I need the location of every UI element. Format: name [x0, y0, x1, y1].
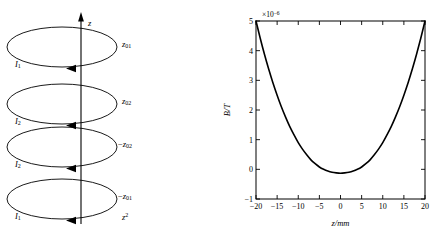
x-tick-label: 5 — [360, 202, 364, 211]
coil-position-label-3: −z02 — [118, 140, 132, 149]
y-tick-label: 3 — [249, 76, 253, 85]
coil-bottom-label: z2 — [122, 212, 128, 221]
coil-ellipse-1 — [7, 27, 117, 67]
coil-position-label-4: −z01 — [118, 192, 132, 201]
y-tick-label: 5 — [249, 17, 253, 26]
coil-current-arrow-2 — [66, 122, 76, 129]
y-ticklabel-group: −1012345 — [244, 17, 253, 204]
x-axis-title: z/mm — [331, 218, 350, 228]
coil-current-sub-4: 1 — [18, 215, 21, 221]
plot-frame — [256, 21, 425, 199]
x-tick-label: 10 — [379, 202, 387, 211]
coil-current-label-4: I1 — [15, 212, 21, 221]
x-tick-label: −10 — [292, 202, 305, 211]
coil-current-label-2: I2 — [15, 117, 21, 126]
coil-current-sub-3: 2 — [18, 163, 21, 169]
coil-bottom-sup: 2 — [125, 212, 128, 218]
coil-position-sub-3: 02 — [126, 143, 132, 149]
x-tick-group — [256, 21, 425, 199]
y-axis-exponent-label: ×10−6 — [262, 10, 280, 19]
magnetic-field-plot: −20−15−10−505101520 −1012345 z/mm B/T ×1… — [216, 0, 432, 237]
x-tick-label: 15 — [400, 202, 408, 211]
coil-current-label-1: I1 — [15, 60, 21, 69]
x-tick-label: 0 — [339, 202, 343, 211]
y-tick-label: 1 — [249, 136, 253, 145]
y-tick-label: 2 — [249, 106, 253, 115]
coil-current-arrow-4 — [66, 217, 76, 224]
plot-svg: −20−15−10−505101520 −1012345 z/mm B/T ×1… — [216, 0, 432, 237]
x-ticklabel-group: −20−15−10−505101520 — [250, 202, 429, 211]
coil-current-sub-2: 2 — [18, 120, 21, 126]
coil-diagram-svg — [0, 0, 216, 237]
z-axis-arrowhead — [78, 12, 84, 22]
field-curve — [256, 21, 425, 173]
x-tick-label: −15 — [271, 202, 284, 211]
y-axis-title: B/T — [222, 103, 232, 117]
coil-stack-diagram: z I1 I2 I2 I1 z01 z02 −z02 −z01 z2 — [0, 0, 216, 237]
x-tick-label: 20 — [421, 202, 429, 211]
y-tick-label: 4 — [249, 47, 253, 56]
coil-current-label-3: I2 — [15, 160, 21, 169]
y-tick-label: −1 — [244, 195, 253, 204]
z-axis-label: z — [88, 19, 91, 28]
coil-ellipse-3 — [7, 127, 117, 167]
coil-position-sub-2: 02 — [125, 100, 131, 106]
coil-position-sub-4: 01 — [126, 195, 132, 201]
coil-position-sub-1: 01 — [125, 43, 131, 49]
y-tick-label: 0 — [249, 165, 253, 174]
x-tick-label: −5 — [315, 202, 324, 211]
coil-ellipse-4 — [7, 179, 117, 219]
figure-page: z I1 I2 I2 I1 z01 z02 −z02 −z01 z2 — [0, 0, 432, 237]
y-axis-exponent-power: −6 — [274, 10, 280, 16]
coil-ellipse-2 — [7, 84, 117, 124]
y-tick-group — [256, 21, 425, 199]
coil-position-label-1: z01 — [122, 40, 131, 49]
coil-current-sub-1: 1 — [18, 63, 21, 69]
coil-current-arrow-3 — [66, 165, 76, 172]
coil-current-arrow-1 — [66, 65, 76, 72]
coil-position-label-2: z02 — [122, 97, 131, 106]
